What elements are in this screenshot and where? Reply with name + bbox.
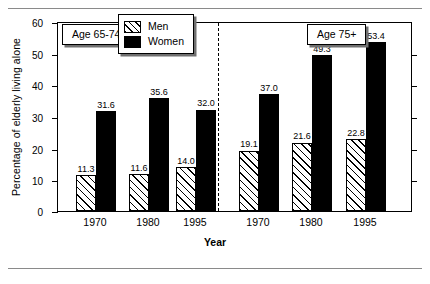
bar-label-women-1970-65to74: 31.6 (84, 101, 128, 110)
bar-men-1980-65to74 (129, 174, 149, 211)
y-tick-50: 50 (52, 55, 58, 56)
y-tick-label-10: 10 (13, 177, 43, 187)
bar-women-1970-75plus (259, 94, 279, 211)
y-tick-40: 40 (52, 86, 58, 87)
bar-women-1995-75plus (366, 42, 386, 211)
y-tick-right-20 (411, 150, 417, 151)
group-label-age-75-plus: Age 75+ (307, 24, 366, 45)
y-tick-30: 30 (52, 118, 58, 119)
legend-swatch-men-icon (124, 21, 141, 33)
bar-label-women-1980-75plus: 49.3 (300, 45, 344, 54)
bar-label-women-1980-65to74: 35.6 (137, 88, 181, 97)
y-tick-label-0: 0 (13, 208, 43, 218)
y-tick-right-30 (411, 118, 417, 119)
chart-legend: Men Women (118, 14, 194, 54)
bar-women-1980-75plus (312, 55, 332, 211)
x-axis-title: Year (0, 236, 430, 248)
x-tick-label-1980-75plus: 1980 (281, 216, 341, 228)
y-tick-label-50: 50 (13, 51, 43, 61)
y-tick-20: 20 (52, 150, 58, 151)
y-tick-label-20: 20 (13, 146, 43, 156)
legend-item-men: Men (124, 19, 184, 34)
bar-men-1995-75plus (346, 139, 366, 211)
bar-men-1970-75plus (239, 151, 259, 212)
plot-area: 60 50 40 30 20 10 0 11.3 31. (57, 22, 412, 212)
bar-women-1980-65to74 (149, 98, 169, 211)
y-tick-right-10 (411, 181, 417, 182)
legend-label-men: Men (148, 21, 168, 32)
group-divider-line (218, 23, 219, 211)
legend-label-women: Women (148, 36, 184, 47)
y-tick-label-60: 60 (13, 19, 43, 29)
bar-men-1980-75plus (292, 143, 312, 211)
y-tick-label-30: 30 (13, 114, 43, 124)
bar-label-women-1995-65to74: 32.0 (184, 99, 228, 108)
bar-women-1970-65to74 (96, 111, 116, 211)
y-tick-label-40: 40 (13, 82, 43, 92)
bar-label-women-1970-75plus: 37.0 (247, 84, 291, 93)
bar-men-1970-65to74 (76, 175, 96, 211)
legend-swatch-women-icon (124, 36, 141, 48)
x-tick-label-1995-75plus: 1995 (335, 216, 395, 228)
x-tick-label-1970-65to74: 1970 (65, 216, 125, 228)
bar-men-1995-65to74 (176, 167, 196, 211)
y-tick-right-40 (411, 86, 417, 87)
y-tick-10: 10 (52, 181, 58, 182)
y-tick-0: 0 (52, 212, 58, 213)
y-tick-right-50 (411, 55, 417, 56)
bar-women-1995-65to74 (196, 110, 216, 211)
x-tick-label-1970-75plus: 1970 (228, 216, 288, 228)
x-tick-label-1995-65to74: 1995 (165, 216, 225, 228)
legend-item-women: Women (124, 34, 184, 49)
y-tick-60: 60 (52, 23, 58, 24)
bar-chart-figure: Percentage of elderly living alone 60 50… (0, 0, 430, 284)
